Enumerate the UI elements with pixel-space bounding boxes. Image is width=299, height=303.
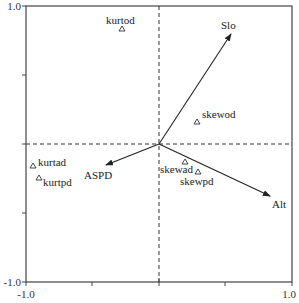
y-tick-label-bottom: -1.0 xyxy=(4,276,22,288)
y-tick-label-top: 1.0 xyxy=(7,0,21,12)
point-skewad-label: skewad xyxy=(160,163,193,175)
point-kurtod-label: kurtod xyxy=(106,14,135,26)
point-kurtpd-triangle-icon xyxy=(36,175,42,180)
vector-aspd-arrow xyxy=(106,144,159,165)
point-kurtad-label: kurtad xyxy=(38,156,67,168)
vector-slo-arrow xyxy=(159,34,231,144)
point-kurtad-triangle-icon xyxy=(30,163,36,168)
biplot-chart: 1.0 -1.0 -1.0 1.0 Slo Alt ASPD kurtod sk… xyxy=(0,0,299,303)
vector-aspd-label: ASPD xyxy=(84,169,112,181)
point-skewpd-triangle-icon xyxy=(195,169,201,174)
x-tick-label-left: -1.0 xyxy=(17,288,35,300)
vector-alt-label: Alt xyxy=(272,198,286,210)
vector-slo-label: Slo xyxy=(221,19,236,31)
point-skewod-label: skewod xyxy=(202,108,236,120)
point-kurtpd-label: kurtpd xyxy=(43,176,72,188)
point-skewpd-label: skewpd xyxy=(180,175,214,187)
point-skewod-triangle-icon xyxy=(194,119,200,124)
point-kurtod-triangle-icon xyxy=(119,26,125,31)
x-tick-label-right: 1.0 xyxy=(282,288,296,300)
